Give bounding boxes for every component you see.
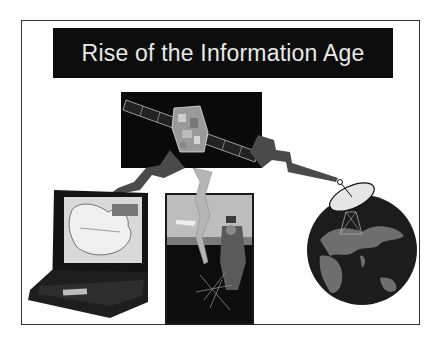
satellite-image: [121, 92, 262, 168]
laptop-icon: [28, 190, 148, 318]
globe-icon: [307, 195, 417, 305]
illustration-canvas: [0, 0, 443, 340]
globe-image: [307, 177, 417, 305]
signal-bolt-dish: [250, 135, 338, 182]
laptop-image: [28, 190, 148, 318]
soldier-image: [165, 193, 254, 325]
